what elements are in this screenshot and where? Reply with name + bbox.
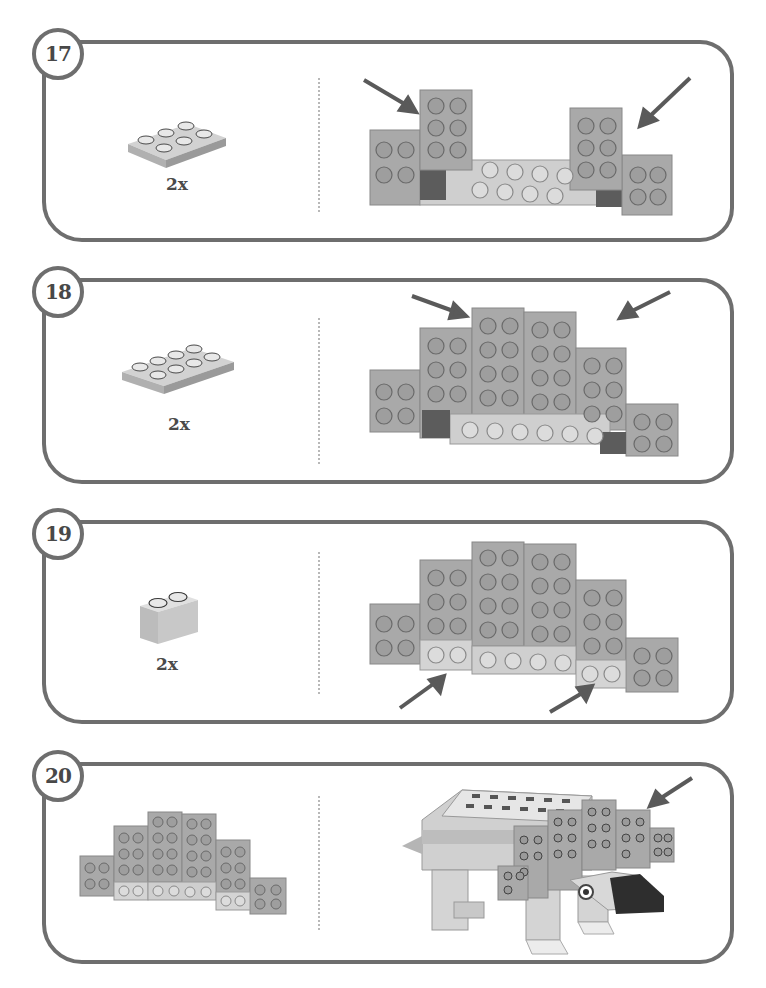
step-20-panel: 20 xyxy=(42,762,734,964)
dotted-divider xyxy=(318,318,320,464)
plate-2x4-icon xyxy=(120,342,240,402)
step-19-panel: 19 2x xyxy=(42,520,734,724)
arrow-icon xyxy=(364,78,690,126)
spine-wall-illustration xyxy=(76,810,296,920)
arrow-icon xyxy=(400,676,592,712)
dotted-divider xyxy=(318,796,320,930)
dinosaur-model-illustration xyxy=(402,770,702,960)
step-18-model-illustration xyxy=(360,284,700,464)
arrow-icon xyxy=(650,778,692,806)
step-number-badge: 19 xyxy=(32,508,84,560)
step-number-badge: 20 xyxy=(32,750,84,802)
quantity-label: 2x xyxy=(166,174,188,194)
dotted-divider xyxy=(318,552,320,694)
brick-1x2-icon xyxy=(138,588,204,648)
step-number-badge: 18 xyxy=(32,266,84,318)
plate-2x3-icon xyxy=(126,116,236,176)
step-17-panel: 17 2x xyxy=(42,40,734,242)
quantity-label: 2x xyxy=(168,414,190,434)
step-number-badge: 17 xyxy=(32,28,84,80)
step-19-model-illustration xyxy=(360,534,700,714)
quantity-label: 2x xyxy=(156,654,178,674)
step-18-panel: 18 2x xyxy=(42,278,734,484)
dotted-divider xyxy=(318,78,320,212)
step-17-model-illustration xyxy=(360,70,700,220)
